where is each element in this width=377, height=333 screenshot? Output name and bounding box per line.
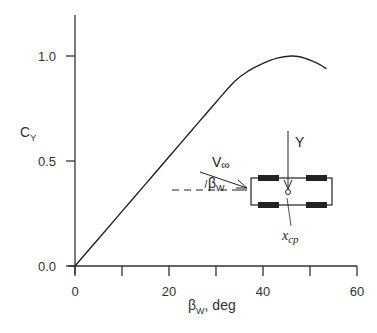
- wheel-front-left: [258, 175, 279, 181]
- wheel-front-right: [306, 175, 327, 181]
- velocity-label: V∞: [212, 154, 230, 172]
- wheel-rear-left: [258, 202, 279, 208]
- y-ticks: [66, 56, 75, 266]
- cp-label: xcp: [281, 228, 299, 245]
- x-tick-label: 20: [162, 284, 176, 299]
- y-tick-label: 0.5: [38, 154, 56, 169]
- y-tick-label: 1.0: [38, 49, 56, 64]
- axes: [68, 15, 357, 274]
- x-axis-title: βW, deg: [188, 297, 236, 316]
- x-tick-label: 0: [71, 284, 78, 299]
- wheel-rear-right: [306, 202, 327, 208]
- velocity-arrowhead: [236, 180, 247, 188]
- y-axis-title: CY: [20, 124, 36, 143]
- x-tick-label: 60: [350, 284, 364, 299]
- chart-svg: 0204060 0.00.51.0 CY βW, deg V∞ βW: [0, 0, 377, 333]
- inset-diagram: V∞ βW Y xcp: [172, 131, 332, 245]
- x-ticks: [75, 266, 357, 276]
- cp-leader-line: [287, 198, 291, 226]
- y-tick-labels: 0.00.51.0: [38, 49, 56, 274]
- x-tick-label: 40: [256, 284, 270, 299]
- side-force-label: Y: [295, 134, 305, 150]
- center-of-pressure-marker: [286, 190, 291, 195]
- angle-arc-icon: [205, 180, 207, 188]
- y-tick-label: 0.0: [38, 259, 56, 274]
